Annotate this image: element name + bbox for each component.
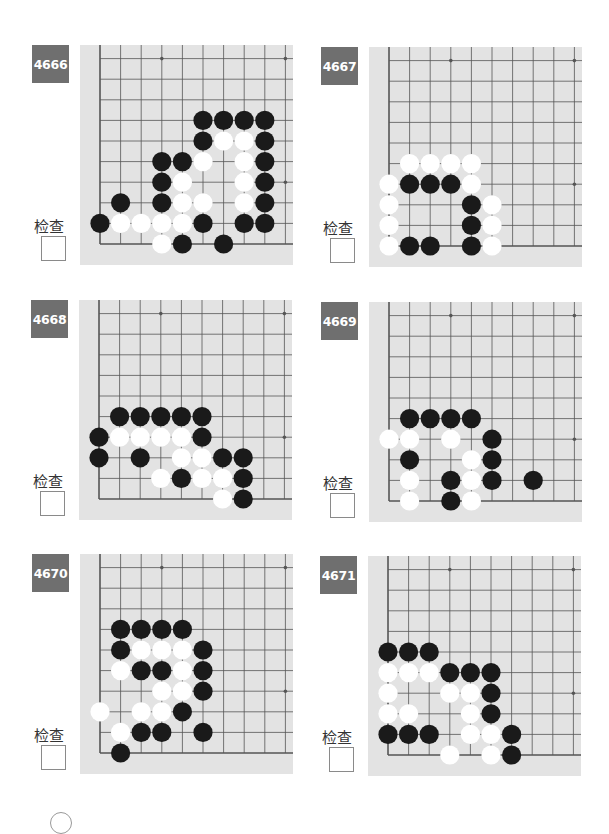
black-stone xyxy=(441,491,460,510)
black-stone xyxy=(132,723,151,742)
black-stone xyxy=(462,236,481,255)
white-stone xyxy=(379,216,398,235)
white-stone xyxy=(378,704,397,723)
star-point xyxy=(284,180,288,184)
check-checkbox[interactable] xyxy=(330,493,355,518)
check-checkbox[interactable] xyxy=(329,747,354,772)
white-stone xyxy=(379,430,398,449)
black-stone xyxy=(193,131,212,150)
black-stone xyxy=(481,704,500,723)
black-stone xyxy=(440,663,459,682)
star-point xyxy=(449,314,453,318)
white-stone xyxy=(132,214,151,233)
black-stone xyxy=(173,234,192,253)
white-stone xyxy=(481,745,500,764)
star-point xyxy=(284,689,288,693)
problem-4668: 4668 检查 xyxy=(31,300,321,525)
black-stone xyxy=(235,111,254,130)
white-stone xyxy=(400,154,419,173)
white-stone xyxy=(441,154,460,173)
go-board xyxy=(368,556,581,776)
board-grid xyxy=(79,300,292,520)
white-stone xyxy=(173,173,192,192)
black-stone xyxy=(152,173,171,192)
white-stone xyxy=(461,704,480,723)
white-stone xyxy=(111,214,130,233)
check-label: 检查 xyxy=(323,217,353,238)
black-stone xyxy=(152,661,171,680)
white-stone xyxy=(110,428,129,447)
white-stone xyxy=(420,663,439,682)
white-stone xyxy=(462,154,481,173)
problem-number-badge: 4666 xyxy=(32,45,69,83)
white-stone xyxy=(152,702,171,721)
black-stone xyxy=(482,450,501,469)
white-stone xyxy=(399,663,418,682)
star-point xyxy=(572,691,576,695)
black-stone xyxy=(441,471,460,490)
black-stone xyxy=(193,723,212,742)
white-stone xyxy=(400,491,419,510)
white-stone xyxy=(235,193,254,212)
black-stone xyxy=(462,195,481,214)
black-stone xyxy=(235,214,254,233)
black-stone xyxy=(441,409,460,428)
problem-number-badge: 4671 xyxy=(320,556,357,594)
white-stone xyxy=(192,469,211,488)
black-stone xyxy=(173,702,192,721)
white-stone xyxy=(172,448,191,467)
black-stone xyxy=(193,111,212,130)
black-stone xyxy=(421,175,440,194)
black-stone xyxy=(131,448,150,467)
white-stone xyxy=(378,684,397,703)
white-stone xyxy=(152,640,171,659)
black-stone xyxy=(255,131,274,150)
go-board xyxy=(80,45,293,265)
black-stone xyxy=(132,661,151,680)
black-stone xyxy=(400,175,419,194)
white-stone xyxy=(152,214,171,233)
problem-4667: 4667 检查 xyxy=(321,47,609,272)
black-stone xyxy=(420,642,439,661)
problem-number-badge: 4667 xyxy=(321,47,358,85)
check-checkbox[interactable] xyxy=(330,238,355,263)
white-stone xyxy=(462,175,481,194)
black-stone xyxy=(400,236,419,255)
white-stone xyxy=(193,152,212,171)
black-stone xyxy=(214,111,233,130)
black-stone xyxy=(462,409,481,428)
star-point xyxy=(573,314,577,318)
black-stone xyxy=(152,723,171,742)
white-stone xyxy=(214,131,233,150)
white-stone xyxy=(461,725,480,744)
black-stone xyxy=(481,684,500,703)
white-stone xyxy=(173,214,192,233)
check-label: 检查 xyxy=(323,472,353,493)
white-stone xyxy=(173,661,192,680)
white-stone xyxy=(440,745,459,764)
black-stone xyxy=(421,409,440,428)
star-point xyxy=(284,57,288,61)
white-stone xyxy=(173,640,192,659)
black-stone xyxy=(482,471,501,490)
check-label: 检查 xyxy=(34,215,64,236)
check-checkbox[interactable] xyxy=(41,745,66,770)
check-label: 检查 xyxy=(34,724,64,745)
white-stone xyxy=(379,195,398,214)
white-stone xyxy=(399,704,418,723)
white-stone xyxy=(131,428,150,447)
white-stone xyxy=(152,234,171,253)
black-stone xyxy=(151,407,170,426)
white-stone xyxy=(235,131,254,150)
black-stone xyxy=(213,448,232,467)
check-checkbox[interactable] xyxy=(41,236,66,261)
white-stone xyxy=(400,471,419,490)
black-stone xyxy=(173,152,192,171)
star-point xyxy=(284,566,288,570)
check-checkbox[interactable] xyxy=(40,491,65,516)
black-stone xyxy=(421,236,440,255)
black-stone xyxy=(152,193,171,212)
black-stone xyxy=(378,725,397,744)
board-grid xyxy=(80,45,293,265)
black-stone xyxy=(400,409,419,428)
